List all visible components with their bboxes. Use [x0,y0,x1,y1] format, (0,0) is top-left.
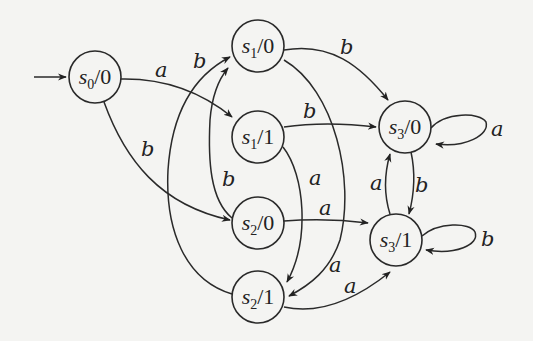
edge-label-s10-s30: b [340,35,353,59]
state-s2-1: s2/1 [232,271,284,323]
edge-s0-s11 [121,79,232,117]
svg-text:s0/0: s0/0 [79,64,112,92]
edge-label-s21-s10: b [193,49,206,73]
edge-label-s21-s31: a [344,274,357,298]
edge-s30-s31 [409,152,414,214]
state-s3-0: s3/0 [379,101,431,153]
edge-label-s31-s30: a [370,171,383,195]
edge-s20-s31 [284,220,368,223]
state-s1-1: s1/1 [232,111,284,163]
edge-label-s30-loop: a [491,117,504,141]
svg-text:s1/0: s1/0 [242,33,275,61]
edge-s31-loop [422,225,476,251]
edge-s20-s10 [209,68,232,218]
svg-text:s2/1: s2/1 [242,284,275,312]
state-s0-0: s0/0 [69,51,121,103]
edge-label-s31-loop: b [481,227,494,251]
edge-label-s0-s20: b [141,137,154,161]
state-s1-0: s1/0 [232,20,284,72]
edge-s11-s21 [283,147,302,282]
edge-s0-s20 [104,102,230,220]
state-s2-0: s2/0 [232,197,284,249]
edge-s10-s30 [284,48,388,100]
edge-s11-s30 [284,124,376,127]
edge-label-s0-s11: a [155,58,168,82]
svg-text:s3/1: s3/1 [380,227,413,255]
svg-text:s1/1: s1/1 [242,124,275,152]
edge-s31-s30 [386,154,391,214]
state-s3-1: s3/1 [370,214,422,266]
edge-label-s20-s31: a [319,196,332,220]
edge-s30-loop [431,115,486,145]
edge-label-s11-s21: a [309,166,322,190]
edge-label-s10-s21: a [329,253,342,277]
edge-label-s30-s31: b [415,173,428,197]
svg-text:s2/0: s2/0 [242,210,275,238]
diagram-svg: a b b b b b a a a a a b [0,0,533,341]
state-diagram: a b b b b b a a a a a b [0,0,533,341]
svg-text:s3/0: s3/0 [389,114,422,142]
edge-label-s11-s30: b [303,99,316,123]
edge-label-s20-s10: b [222,167,235,191]
